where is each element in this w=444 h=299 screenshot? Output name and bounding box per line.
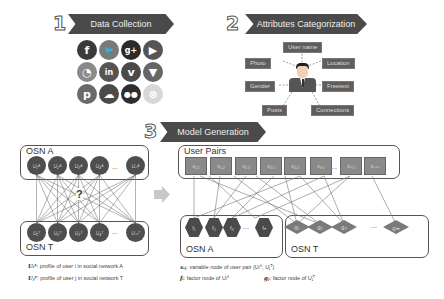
osn-a-ellipsis: ... (112, 163, 118, 170)
osn-t-profile-node: U₂ᵀ (48, 223, 67, 242)
legend-f: fᵢ: factor node of Uᵢᴬ (180, 275, 229, 281)
osn-t-profile-node: Uₘᵀ (126, 223, 145, 242)
legend-ua-symbol: Uᵢᴬ (28, 263, 37, 269)
user-pairs-ellipsis: ... (331, 163, 337, 170)
osn-t-profile-node: U₁ᵀ (27, 223, 46, 242)
legend-ua: Uᵢᴬ: profile of user i in social network… (28, 263, 123, 269)
osn-a-profile-node: U₄ᴬ (90, 156, 109, 175)
legend-g: gⱼ: factor node of Uⱼᵀ (264, 275, 315, 281)
osn-a-profile-node: U₃ᴬ (69, 156, 88, 175)
osn-t-ellipsis: ... (112, 228, 118, 235)
legend-ut-text: : profile of user j in social network T (37, 275, 123, 281)
osn-t-profile-node: U₃ᵀ (69, 223, 88, 242)
graph-edges (0, 0, 444, 299)
user-pair-node: x₁,₂ (210, 157, 232, 175)
user-pair-node: x₁,₁ (185, 157, 207, 175)
unknown-links-question-mark: ? (76, 188, 83, 200)
legend-ut-symbol: Uⱼᵀ (28, 275, 37, 281)
osn-t-profile-node: U₄ᵀ (90, 223, 109, 242)
legend-g-text: : factor node of Uⱼᵀ (270, 275, 316, 281)
legend-x: xᵢⱼ: variable node of user pair (Uᵢᴬ, Uⱼ… (180, 264, 274, 270)
user-pair-node: x₂,₁ (260, 157, 282, 175)
user-pair-node: xₙ,₁ (340, 157, 362, 175)
user-pair-node: x₁,₃ (235, 157, 257, 175)
factor-t-ellipsis: ... (371, 222, 377, 229)
factor-a-ellipsis: ... (243, 223, 249, 230)
legend-f-text: : factor node of Uᵢᴬ (184, 275, 230, 281)
legend-ua-text: : profile of user i in social network A (37, 263, 123, 269)
user-pair-node: xₙ,ₘ (364, 157, 386, 175)
osn-a-profile-node: Uₙᴬ (126, 156, 145, 175)
legend-ut: Uⱼᵀ: profile of user j in social network… (28, 275, 123, 281)
user-pair-node: x₂,₂ (284, 157, 306, 175)
transform-arrow-icon (154, 190, 163, 199)
user-pair-node: x₃,₁ (310, 157, 332, 175)
osn-a-profile-node: U₁ᴬ (27, 156, 46, 175)
osn-a-profile-node: U₂ᴬ (48, 156, 67, 175)
legend-x-text: : variable node of user pair (Uᵢᴬ, Uⱼᵀ) (186, 264, 274, 270)
